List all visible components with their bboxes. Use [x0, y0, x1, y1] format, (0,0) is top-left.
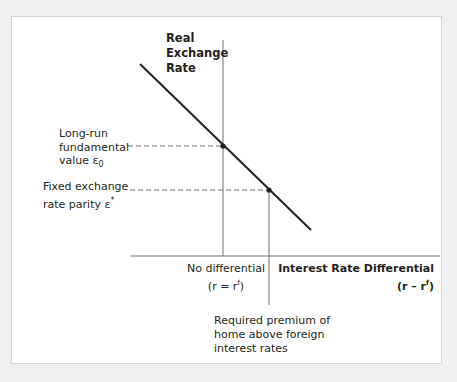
- formula-end: ): [240, 280, 244, 293]
- y-axis-title: Real Exchange Rate: [166, 31, 228, 76]
- no-differential-text: No differential: [186, 262, 266, 276]
- x-formula-text: (r – r: [397, 280, 426, 293]
- x-axis-title-text: Interest Rate Differential: [274, 262, 434, 276]
- long-run-point: [220, 143, 225, 148]
- long-run-label-line: Long-run: [59, 127, 129, 141]
- y-axis-title-line: Real: [166, 31, 228, 46]
- formula-text: (r = r: [208, 280, 238, 293]
- y-axis-title-line: Rate: [166, 61, 228, 76]
- premium-label-line: home above foreign: [214, 328, 330, 342]
- fixed-text: rate parity ε: [43, 198, 110, 211]
- epsilon-subscript: 0: [99, 160, 104, 169]
- long-run-text: value ε: [59, 154, 99, 167]
- epsilon-superscript: *: [110, 196, 114, 205]
- fixed-parity-label-line: rate parity ε*: [43, 194, 128, 212]
- fixed-parity-point: [266, 187, 271, 192]
- x-axis-title-formula: (r – rf): [274, 276, 434, 294]
- premium-label: Required premium of home above foreign i…: [214, 314, 330, 356]
- exchange-rate-line: [140, 64, 311, 230]
- fixed-parity-label: Fixed exchange rate parity ε*: [43, 180, 128, 212]
- long-run-label-line: fundamental: [59, 141, 129, 155]
- premium-label-line: Required premium of: [214, 314, 330, 328]
- x-axis-title: Interest Rate Differential (r – rf): [274, 262, 434, 294]
- premium-label-line: interest rates: [214, 342, 330, 356]
- long-run-label-line: value ε0: [59, 154, 129, 172]
- x-formula-end: ): [429, 280, 434, 293]
- long-run-label: Long-run fundamental value ε0: [59, 127, 129, 172]
- no-differential-label: No differential (r = rf): [186, 262, 266, 294]
- fixed-parity-label-line: Fixed exchange: [43, 180, 128, 194]
- no-differential-formula: (r = rf): [186, 276, 266, 294]
- y-axis-title-line: Exchange: [166, 46, 228, 61]
